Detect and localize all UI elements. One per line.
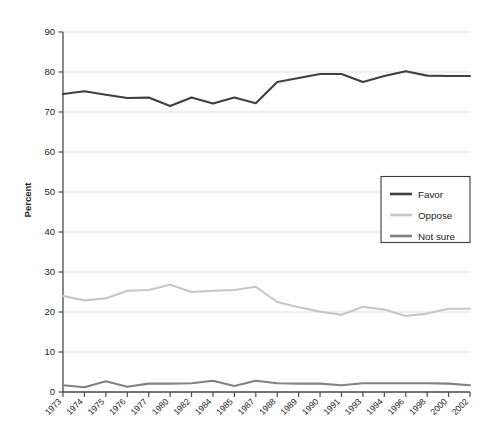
x-tick-label: 1994 [364, 396, 385, 417]
x-tick-label: 2002 [450, 396, 471, 417]
x-tick-label: 1996 [386, 396, 407, 417]
series-line-favor [63, 71, 470, 106]
x-tick-label: 1991 [321, 396, 342, 417]
y-tick-label: 0 [50, 386, 55, 397]
x-tick-label: 1993 [343, 396, 364, 417]
x-tick-label: 1985 [214, 396, 235, 417]
chart-canvas: 0102030405060708090 19731974197519761977… [0, 0, 495, 441]
y-tick-label: 60 [44, 146, 55, 157]
y-tick-label: 30 [44, 266, 55, 277]
series-line-oppose [63, 285, 470, 316]
x-tick-label: 1990 [300, 396, 321, 417]
x-tick-label: 1977 [129, 396, 150, 417]
x-tick-label: 1989 [278, 396, 299, 417]
y-tick-label: 40 [44, 226, 55, 237]
legend-label-not-sure: Not sure [418, 231, 456, 242]
x-axis: 1973197419751976197719801982198419851987… [43, 392, 471, 417]
y-tick-label: 70 [44, 106, 55, 117]
y-axis: 0102030405060708090 [44, 26, 63, 397]
y-tick-label: 10 [44, 346, 55, 357]
series-line-not-sure [63, 381, 470, 387]
x-tick-label: 1974 [64, 396, 85, 417]
x-tick-label: 1975 [86, 396, 107, 417]
x-tick-label: 1982 [171, 396, 192, 417]
x-tick-label: 1984 [193, 396, 214, 417]
line-chart: 0102030405060708090 19731974197519761977… [0, 0, 495, 441]
y-tick-label: 50 [44, 186, 55, 197]
x-tick-label: 1987 [236, 396, 257, 417]
y-tick-label: 90 [44, 26, 55, 37]
x-tick-label: 1976 [107, 396, 128, 417]
x-tick-label: 1998 [407, 396, 428, 417]
x-tick-label: 1973 [43, 396, 64, 417]
y-axis-title: Percent [22, 182, 33, 218]
y-tick-label: 20 [44, 306, 55, 317]
x-tick-label: 2000 [428, 396, 449, 417]
legend-label-favor: Favor [418, 189, 444, 200]
y-tick-label: 80 [44, 66, 55, 77]
legend-label-oppose: Oppose [418, 210, 453, 221]
x-tick-label: 1988 [257, 396, 278, 417]
x-tick-label: 1980 [150, 396, 171, 417]
legend: FavorOpposeNot sure [381, 177, 470, 243]
